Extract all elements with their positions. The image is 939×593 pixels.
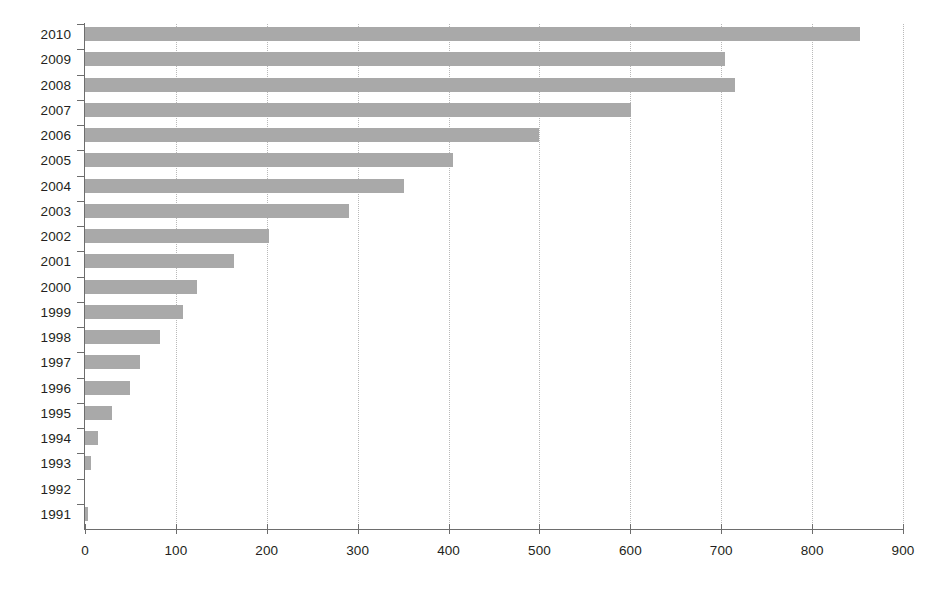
y-tick-1992 — [77, 479, 85, 480]
x-tick-900 — [903, 524, 904, 534]
y-tick-2002 — [77, 226, 85, 227]
gridline-600 — [630, 24, 631, 529]
bar-2008[interactable] — [85, 78, 735, 92]
bar-2001[interactable] — [85, 254, 234, 268]
gridline-400 — [449, 24, 450, 529]
category-axis-labels: 2010200920082007200620052004200320022001… — [0, 0, 71, 593]
x-tick-0 — [85, 524, 86, 534]
y-axis-label-2008: 2008 — [9, 79, 71, 93]
bar-2009[interactable] — [85, 52, 725, 66]
y-axis-label-2001: 2001 — [9, 255, 71, 269]
x-axis-label-700: 700 — [710, 543, 733, 559]
y-axis-label-2002: 2002 — [9, 230, 71, 244]
gridline-700 — [721, 24, 722, 529]
y-axis-label-1999: 1999 — [9, 306, 71, 320]
gridline-800 — [812, 24, 813, 529]
bar-1993[interactable] — [85, 456, 91, 470]
bar-1997[interactable] — [85, 355, 140, 369]
y-tick-2001 — [77, 251, 85, 252]
gridline-900 — [903, 24, 904, 529]
bar-chart-figure: 2010200920082007200620052004200320022001… — [0, 0, 939, 593]
y-tick-1995 — [77, 403, 85, 404]
y-tick-2006 — [77, 125, 85, 126]
x-axis-label-0: 0 — [81, 543, 89, 559]
y-axis-label-1992: 1992 — [9, 483, 71, 497]
y-tick-1997 — [77, 352, 85, 353]
y-tick-2007 — [77, 100, 85, 101]
y-axis-label-1995: 1995 — [9, 407, 71, 421]
bar-2003[interactable] — [85, 204, 349, 218]
x-axis-label-300: 300 — [346, 543, 369, 559]
y-tick-2000 — [77, 277, 85, 278]
y-tick-2008 — [77, 75, 85, 76]
y-axis-label-1994: 1994 — [9, 432, 71, 446]
bar-2007[interactable] — [85, 103, 631, 117]
x-axis-label-200: 200 — [255, 543, 278, 559]
gridline-100 — [176, 24, 177, 529]
x-tick-600 — [630, 524, 631, 534]
gridline-300 — [358, 24, 359, 529]
x-tick-300 — [358, 524, 359, 534]
y-tick-2010 — [77, 24, 85, 25]
y-axis-label-2010: 2010 — [9, 28, 71, 42]
y-axis-label-2003: 2003 — [9, 205, 71, 219]
x-axis-line — [84, 529, 904, 530]
plot-area — [85, 24, 903, 529]
bar-1998[interactable] — [85, 330, 160, 344]
x-tick-200 — [267, 524, 268, 534]
gridline-200 — [267, 24, 268, 529]
y-tick-2005 — [77, 150, 85, 151]
bar-1995[interactable] — [85, 406, 112, 420]
y-axis-label-2000: 2000 — [9, 281, 71, 295]
x-axis-label-600: 600 — [619, 543, 642, 559]
x-axis-label-800: 800 — [801, 543, 824, 559]
x-tick-100 — [176, 524, 177, 534]
y-tick-1996 — [77, 378, 85, 379]
y-axis-label-2009: 2009 — [9, 53, 71, 67]
y-axis-label-1993: 1993 — [9, 457, 71, 471]
x-axis-label-100: 100 — [164, 543, 187, 559]
x-tick-500 — [539, 524, 540, 534]
bar-1994[interactable] — [85, 431, 98, 445]
bar-2006[interactable] — [85, 128, 539, 142]
bar-2002[interactable] — [85, 229, 269, 243]
x-tick-400 — [449, 524, 450, 534]
y-tick-2003 — [77, 201, 85, 202]
y-tick-1999 — [77, 302, 85, 303]
y-axis-label-2004: 2004 — [9, 180, 71, 194]
y-axis-label-1998: 1998 — [9, 331, 71, 345]
y-tick-2009 — [77, 49, 85, 50]
gridline-500 — [539, 24, 540, 529]
bar-2005[interactable] — [85, 153, 453, 167]
y-axis-label-2006: 2006 — [9, 129, 71, 143]
x-axis-label-400: 400 — [437, 543, 460, 559]
bar-2000[interactable] — [85, 280, 197, 294]
bar-2010[interactable] — [85, 27, 860, 41]
bar-1996[interactable] — [85, 381, 130, 395]
x-axis-label-500: 500 — [528, 543, 551, 559]
y-tick-1998 — [77, 327, 85, 328]
x-tick-800 — [812, 524, 813, 534]
y-axis-label-1996: 1996 — [9, 382, 71, 396]
y-axis-label-1991: 1991 — [9, 508, 71, 522]
y-axis-label-2007: 2007 — [9, 104, 71, 118]
y-tick-2004 — [77, 176, 85, 177]
y-tick-1994 — [77, 428, 85, 429]
y-axis-label-2005: 2005 — [9, 154, 71, 168]
y-tick-1991 — [77, 504, 85, 505]
y-axis-label-1997: 1997 — [9, 356, 71, 370]
bar-2004[interactable] — [85, 179, 404, 193]
x-tick-700 — [721, 524, 722, 534]
bar-1999[interactable] — [85, 305, 183, 319]
bar-1991[interactable] — [85, 507, 88, 521]
y-tick-1993 — [77, 453, 85, 454]
x-axis-label-900: 900 — [892, 543, 915, 559]
